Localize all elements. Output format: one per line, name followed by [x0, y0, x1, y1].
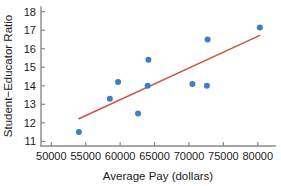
data-point: [107, 96, 113, 102]
y-axis: 1112131415161718 Student−Educator Ratio: [2, 6, 45, 148]
y-tick-label: 14: [24, 80, 36, 92]
chart-canvas: 1112131415161718 Student−Educator Ratio …: [0, 0, 281, 186]
y-tick-label: 11: [25, 135, 36, 147]
x-axis-tick-labels: 50000550006000065000700007500080000: [36, 150, 273, 162]
y-axis-tick-labels: 1112131415161718: [24, 6, 36, 148]
y-tick-label: 17: [24, 24, 36, 36]
data-point: [205, 36, 211, 42]
y-axis-title: Student−Educator Ratio: [2, 15, 14, 137]
data-point: [115, 79, 121, 85]
data-points: [76, 24, 263, 135]
x-axis-title: Average Pay (dollars): [103, 170, 214, 182]
x-tick-label: 65000: [139, 150, 170, 162]
data-point: [189, 81, 195, 87]
x-tick-label: 50000: [36, 150, 67, 162]
y-tick-label: 18: [24, 6, 36, 18]
y-tick-label: 13: [24, 98, 36, 110]
data-point: [145, 83, 151, 89]
data-point: [76, 129, 82, 135]
y-tick-label: 16: [24, 43, 36, 55]
data-point: [257, 24, 263, 30]
x-tick-label: 75000: [208, 150, 239, 162]
x-tick-label: 80000: [242, 150, 273, 162]
x-axis: 50000550006000065000700007500080000 Aver…: [36, 142, 275, 182]
regression-line-segment: [79, 35, 260, 118]
x-tick-label: 55000: [70, 150, 101, 162]
y-tick-label: 12: [24, 117, 36, 129]
data-point: [204, 83, 210, 89]
y-tick-label: 15: [24, 61, 36, 73]
regression-line: [79, 35, 260, 118]
data-point: [145, 57, 151, 63]
x-tick-label: 60000: [105, 150, 136, 162]
data-point: [135, 111, 141, 117]
scatterplot-figure: 1112131415161718 Student−Educator Ratio …: [0, 0, 281, 186]
x-tick-label: 70000: [174, 150, 205, 162]
